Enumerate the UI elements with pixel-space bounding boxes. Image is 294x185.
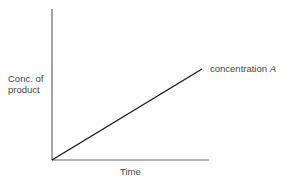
y-axis-label-line-1: Conc. of (8, 74, 43, 85)
series-label-text: concentration (210, 63, 267, 74)
y-axis-label-line-2: product (8, 85, 43, 96)
chart-canvas (0, 0, 294, 185)
series-line-concentration-a (52, 69, 202, 160)
series-label-variable: A (270, 63, 276, 74)
y-axis-label: Conc. of product (8, 74, 43, 95)
series-label-concentration-a: concentration A (210, 63, 276, 74)
x-axis-label: Time (120, 166, 141, 177)
